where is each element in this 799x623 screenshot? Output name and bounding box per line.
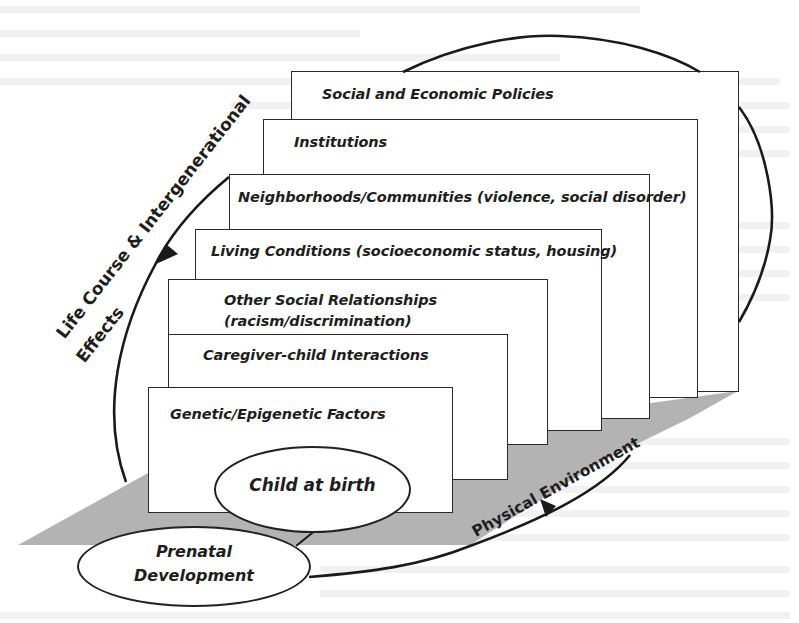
arrow-down-left-icon <box>156 244 178 264</box>
node-label: Child at birth <box>216 475 409 495</box>
node-label: Prenatal <box>79 542 309 561</box>
node-prenatal-development: Prenatal Development <box>77 526 311 607</box>
node-child-at-birth: Child at birth <box>214 446 411 533</box>
diagram-canvas: Social and Economic Policies Institution… <box>0 0 799 623</box>
node-label: Development <box>79 566 309 585</box>
